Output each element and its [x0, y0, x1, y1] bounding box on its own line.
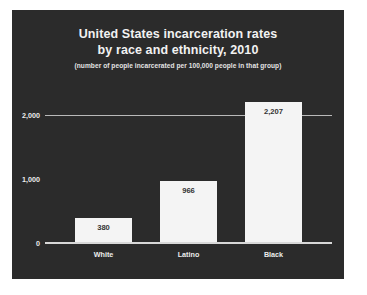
y-axis-tick-label-2000: 2,000: [12, 111, 40, 120]
x-axis-baseline: [45, 242, 332, 244]
chart-panel: United States incarceration rates by rac…: [12, 10, 344, 279]
chart-title-line-1: United States incarceration rates: [12, 27, 344, 43]
bar-value-white: 380: [75, 223, 132, 232]
chart-title-line-2: by race and ethnicity, 2010: [12, 43, 344, 59]
chart-figure: United States incarceration rates by rac…: [0, 0, 367, 295]
y-axis-tick-label-0: 0: [12, 239, 40, 248]
bar-group-black: 2,207 Black: [245, 90, 302, 242]
bar-group-white: 380 White: [75, 90, 132, 242]
x-axis-label-latino: Latino: [160, 250, 217, 259]
bar-group-latino: 966 Latino: [160, 90, 217, 242]
bar-black: [245, 102, 302, 242]
x-axis-label-white: White: [75, 250, 132, 259]
plot-area: 380 White 966 Latino 2,207 Black: [45, 90, 332, 243]
bar-value-latino: 966: [160, 186, 217, 195]
chart-subtitle: (number of people incarcerated per 100,0…: [12, 62, 344, 69]
y-axis-tick-label-1000: 1,000: [12, 175, 40, 184]
chart-title-block: United States incarceration rates by rac…: [12, 27, 344, 58]
x-axis-label-black: Black: [245, 250, 302, 259]
bar-value-black: 2,207: [245, 107, 302, 116]
